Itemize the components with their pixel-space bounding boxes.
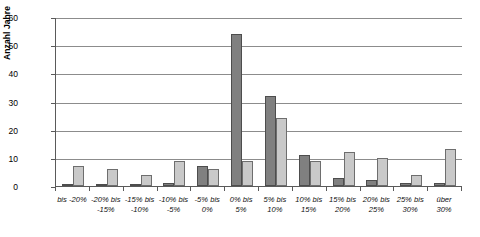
x-axis-label-line2: -10%: [123, 205, 157, 215]
x-axis-label-line1: 20% bis: [363, 195, 390, 204]
x-axis-label-line1: -15% bis: [125, 195, 155, 204]
x-axis-label: 25% bis30%: [393, 195, 427, 215]
bar: [445, 149, 456, 186]
x-axis-label: über30%: [427, 195, 461, 215]
bar: [174, 161, 185, 186]
plot-area: [55, 18, 462, 187]
x-axis-label-line1: -20% bis: [91, 195, 121, 204]
x-axis-labels: bis -20%-20% bis-15%-15% bis-10%-10% bis…: [55, 195, 461, 215]
bar: [107, 169, 118, 186]
bar: [265, 96, 276, 186]
x-axis-tick-mark: [427, 186, 428, 191]
x-axis-label-line2: 30%: [393, 205, 427, 215]
x-axis-tick-mark: [326, 186, 327, 191]
x-axis-label: 15% bis20%: [326, 195, 360, 215]
bar: [310, 161, 321, 186]
x-axis-tick-mark: [190, 186, 191, 191]
bar-chart: Anzahl Jahre 0102030405060 bis -20%-20% …: [0, 0, 480, 237]
bar: [276, 118, 287, 186]
bar-group: [225, 18, 259, 186]
x-axis-label-line2: 15%: [292, 205, 326, 215]
x-axis-label: 10% bis15%: [292, 195, 326, 215]
x-axis-label: -5% bis0%: [190, 195, 224, 215]
bar-group: [90, 18, 124, 186]
x-axis-label-line1: über: [436, 195, 451, 204]
x-axis-tick-mark: [360, 186, 361, 191]
x-axis-tick-mark: [393, 186, 394, 191]
bar-groups: [56, 18, 462, 186]
bar-group: [124, 18, 158, 186]
bar-group: [191, 18, 225, 186]
x-axis-label-line1: bis -20%: [57, 195, 87, 204]
x-axis-label: -15% bis-10%: [123, 195, 157, 215]
bar: [141, 175, 152, 186]
x-axis-label: -20% bis-15%: [89, 195, 123, 215]
bar-group: [327, 18, 361, 186]
y-axis-tick-label: 0: [0, 182, 18, 192]
x-axis-label-line2: -15%: [89, 205, 123, 215]
x-axis-tick-mark: [89, 186, 90, 191]
bar: [344, 152, 355, 186]
x-axis-tick-mark: [157, 186, 158, 191]
x-axis-label-line1: -5% bis: [195, 195, 220, 204]
x-axis-label-line2: 30%: [427, 205, 461, 215]
y-axis-tick-label: 20: [0, 126, 18, 136]
x-axis-label: -10% bis-5%: [156, 195, 190, 215]
x-axis-tick-mark: [123, 186, 124, 191]
bar: [411, 175, 422, 186]
y-axis-tick-label: 30: [0, 98, 18, 108]
x-axis-label-line2: -5%: [156, 205, 190, 215]
x-axis-tick-mark: [292, 186, 293, 191]
bar-group: [157, 18, 191, 186]
bar-group: [360, 18, 394, 186]
x-axis-label-line2: 5%: [224, 205, 258, 215]
x-axis-tick-mark: [224, 186, 225, 191]
bar: [197, 166, 208, 186]
bar-group: [56, 18, 90, 186]
bar: [231, 34, 242, 186]
x-axis-tick-mark: [258, 186, 259, 191]
x-axis-label-line2: 20%: [326, 205, 360, 215]
x-axis-label-line1: 10% bis: [295, 195, 322, 204]
x-axis-tick-mark: [55, 186, 56, 191]
bar-group: [394, 18, 428, 186]
y-axis-tick-label: 40: [0, 69, 18, 79]
bar: [377, 158, 388, 186]
x-axis-label-line1: -10% bis: [159, 195, 189, 204]
x-axis-label: 20% bis25%: [359, 195, 393, 215]
bar: [333, 178, 344, 186]
bar: [208, 169, 219, 186]
x-axis-label-line1: 25% bis: [397, 195, 424, 204]
bar: [299, 155, 310, 186]
x-axis-label-line2: 25%: [359, 205, 393, 215]
x-axis-label-line1: 0% bis: [230, 195, 253, 204]
bar: [242, 161, 253, 186]
x-axis-tick-mark: [461, 186, 462, 191]
x-axis-label-line1: 15% bis: [329, 195, 356, 204]
y-axis-tick-label: 50: [0, 41, 18, 51]
x-axis-label: bis -20%: [55, 195, 89, 215]
x-axis-label-line2: 10%: [258, 205, 292, 215]
x-axis-label-line2: 0%: [190, 205, 224, 215]
bar-group: [293, 18, 327, 186]
x-axis-label: 0% bis5%: [224, 195, 258, 215]
x-axis-tick-marks: [55, 186, 461, 191]
bar-group: [428, 18, 462, 186]
y-axis-tick-label: 10: [0, 154, 18, 164]
x-axis-label: 5% bis10%: [258, 195, 292, 215]
x-axis-label-line1: 5% bis: [263, 195, 286, 204]
bar: [73, 166, 84, 186]
y-axis-tick-label: 60: [0, 13, 18, 23]
bar-group: [259, 18, 293, 186]
